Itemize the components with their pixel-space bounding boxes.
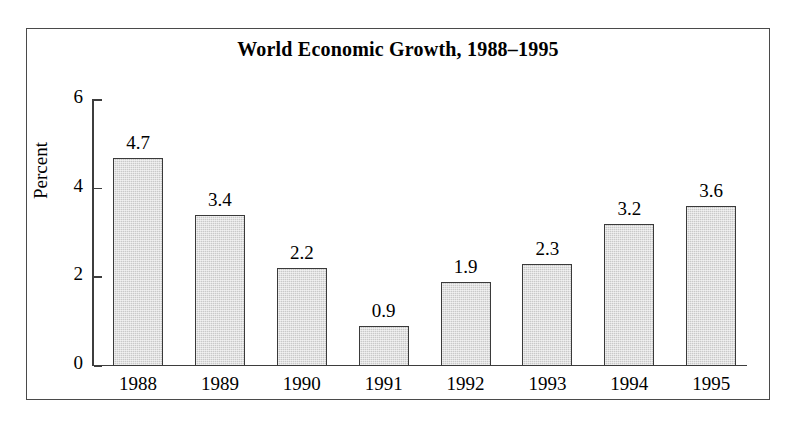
figure: World Economic Growth, 1988–1995 0246 Pe…	[0, 0, 787, 431]
bar-1995[interactable]	[686, 206, 736, 366]
y-tick-mark	[94, 365, 102, 367]
bar-1988[interactable]	[113, 158, 163, 366]
bar-value-label: 3.2	[604, 199, 654, 218]
x-tick-label: 1993	[522, 374, 572, 393]
bar-1992[interactable]	[441, 282, 491, 366]
bar-1990[interactable]	[277, 268, 327, 366]
bar-1989[interactable]	[195, 215, 245, 366]
y-tick-label: 4	[74, 176, 84, 195]
y-tick-mark	[94, 188, 102, 190]
y-tick-mark	[94, 276, 102, 278]
y-tick-label: 6	[74, 87, 84, 106]
x-tick-label: 1995	[686, 374, 736, 393]
bar-value-label: 3.6	[686, 181, 736, 200]
y-tick-label: 0	[74, 353, 84, 372]
x-tick-label: 1989	[195, 374, 245, 393]
x-tick-label: 1992	[441, 374, 491, 393]
x-tick-label: 1991	[359, 374, 409, 393]
plot-area: 0246 Percent 4.719883.419892.219900.9199…	[92, 99, 747, 366]
chart-title: World Economic Growth, 1988–1995	[26, 38, 770, 61]
y-axis-title: Percent	[30, 142, 52, 199]
bar-1993[interactable]	[522, 264, 572, 366]
bar-value-label: 2.2	[277, 243, 327, 262]
bar-value-label: 4.7	[113, 133, 163, 152]
bar-1994[interactable]	[604, 224, 654, 366]
bar-value-label: 3.4	[195, 190, 245, 209]
x-tick-label: 1990	[277, 374, 327, 393]
bar-value-label: 2.3	[522, 239, 572, 258]
x-tick-label: 1994	[604, 374, 654, 393]
bar-value-label: 0.9	[359, 301, 409, 320]
x-tick-label: 1988	[113, 374, 163, 393]
y-axis-line	[92, 99, 94, 366]
y-tick-mark	[94, 99, 102, 101]
bar-value-label: 1.9	[441, 257, 491, 276]
bar-1991[interactable]	[359, 326, 409, 366]
y-tick-label: 2	[74, 264, 84, 283]
